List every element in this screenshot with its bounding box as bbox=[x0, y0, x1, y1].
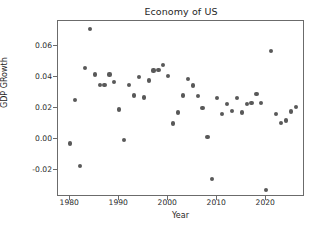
y-tick-mark bbox=[53, 169, 57, 170]
data-point bbox=[279, 121, 283, 125]
data-point bbox=[68, 141, 72, 145]
data-point bbox=[205, 135, 209, 139]
matplotlib-figure: Economy of US GDP GRowth -0.020.000.020.… bbox=[0, 0, 317, 233]
data-point bbox=[289, 109, 293, 113]
data-point bbox=[186, 77, 190, 81]
data-point bbox=[284, 118, 288, 122]
data-point bbox=[166, 74, 170, 78]
data-point bbox=[215, 96, 219, 100]
data-point bbox=[269, 49, 273, 53]
data-point bbox=[78, 164, 82, 168]
data-point bbox=[137, 75, 141, 79]
data-point bbox=[83, 66, 87, 70]
data-point bbox=[98, 83, 102, 87]
data-point bbox=[147, 78, 151, 82]
data-point bbox=[156, 68, 160, 72]
data-point bbox=[210, 177, 214, 181]
y-tick-label: 0.00 bbox=[35, 133, 52, 142]
data-point bbox=[245, 102, 249, 106]
data-point bbox=[220, 112, 224, 116]
x-tick-mark bbox=[69, 196, 70, 200]
data-point bbox=[132, 93, 136, 97]
data-point bbox=[117, 107, 121, 111]
data-point bbox=[142, 95, 146, 99]
data-point bbox=[230, 109, 234, 113]
x-tick-mark bbox=[118, 196, 119, 200]
data-point bbox=[254, 92, 258, 96]
x-axis-label: Year bbox=[57, 211, 304, 220]
data-point bbox=[102, 83, 106, 87]
y-axis-tick-labels: -0.020.000.020.040.06 bbox=[0, 20, 52, 196]
y-tick-label: -0.02 bbox=[32, 164, 52, 173]
data-point bbox=[200, 106, 204, 110]
data-point bbox=[240, 110, 244, 114]
plot-area bbox=[57, 20, 304, 196]
data-point bbox=[176, 110, 180, 114]
y-tick-mark bbox=[53, 107, 57, 108]
data-point bbox=[274, 112, 278, 116]
data-point bbox=[151, 68, 155, 72]
x-tick-mark bbox=[265, 196, 266, 200]
y-tick-mark bbox=[53, 76, 57, 77]
y-tick-mark bbox=[53, 138, 57, 139]
data-point bbox=[112, 80, 116, 84]
page-title: Economy of US bbox=[57, 6, 305, 17]
data-point bbox=[93, 72, 97, 76]
data-point bbox=[122, 138, 126, 142]
data-point bbox=[127, 83, 131, 87]
data-point bbox=[294, 105, 298, 109]
data-point bbox=[88, 27, 92, 31]
y-tick-label: 0.04 bbox=[35, 72, 52, 81]
y-tick-mark bbox=[53, 45, 57, 46]
data-point bbox=[107, 72, 111, 76]
data-point bbox=[225, 102, 229, 106]
data-point bbox=[235, 96, 239, 100]
data-point bbox=[264, 188, 268, 192]
data-point bbox=[196, 94, 200, 98]
scatter-points-layer bbox=[58, 21, 303, 195]
data-point bbox=[181, 93, 185, 97]
data-point bbox=[73, 98, 77, 102]
data-point bbox=[249, 101, 253, 105]
data-point bbox=[171, 121, 175, 125]
y-tick-label: 0.06 bbox=[35, 41, 52, 50]
data-point bbox=[191, 83, 195, 87]
y-tick-label: 0.02 bbox=[35, 103, 52, 112]
x-tick-mark bbox=[167, 196, 168, 200]
x-axis-tick-labels: 19801990200020102020 bbox=[57, 198, 304, 210]
x-tick-mark bbox=[216, 196, 217, 200]
data-point bbox=[259, 101, 263, 105]
data-point bbox=[161, 63, 165, 67]
